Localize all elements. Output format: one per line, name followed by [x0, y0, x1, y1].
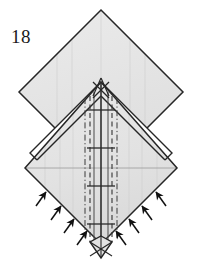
bottom-tip-detail: [90, 236, 112, 258]
fold-arrow: [129, 219, 139, 233]
center-crease-column: [85, 82, 117, 250]
fold-arrow: [36, 192, 46, 206]
origami-figure: 18: [0, 0, 200, 266]
step-number-label: 18: [11, 27, 31, 46]
fold-arrow: [64, 219, 74, 233]
fold-arrow: [156, 192, 166, 206]
fold-arrow: [142, 206, 152, 220]
fold-arrow: [51, 206, 61, 220]
